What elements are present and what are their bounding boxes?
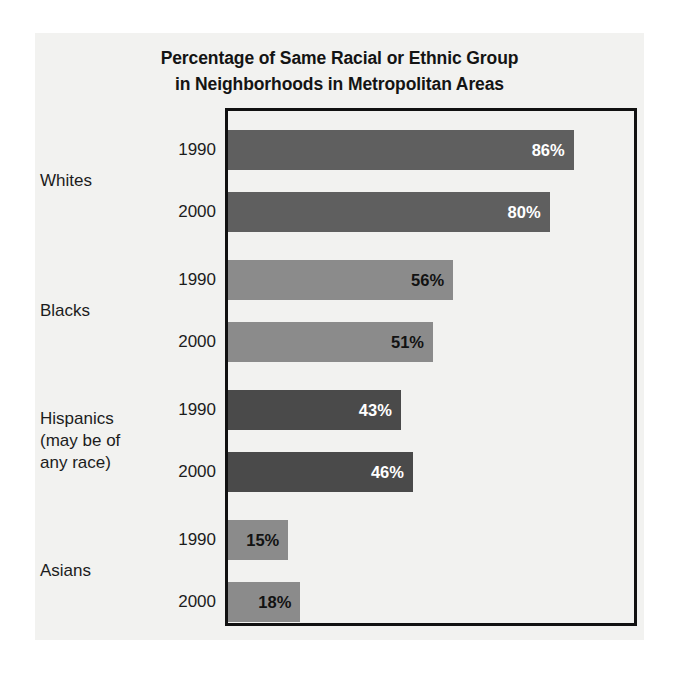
year-label: 1990 [130,130,216,170]
year-label: 2000 [130,322,216,362]
chart-figure: Percentage of Same Racial or Ethnic Grou… [35,33,644,640]
bar-group: Blacks199056%200051% [35,260,644,362]
group-label-line: Whites [40,170,190,192]
bar-value-label: 46% [371,452,404,492]
bar: 80% [228,192,550,232]
bar-row: 199086% [35,130,644,170]
bar-value-label: 56% [411,260,444,300]
bar-value-label: 86% [532,130,565,170]
bar-row: 200080% [35,192,644,232]
bar-row: 200046% [35,452,644,492]
bar: 15% [228,520,288,560]
group-label-line: (may be of [40,430,190,452]
chart-title: Percentage of Same Racial or Ethnic Grou… [35,45,644,97]
group-label: Whites [40,170,190,192]
bar-value-label: 51% [391,322,424,362]
bar-row: 199056% [35,260,644,300]
chart-title-line-2: in Neighborhoods in Metropolitan Areas [35,71,644,97]
bar: 46% [228,452,413,492]
year-label: 2000 [130,452,216,492]
bar-value-label: 18% [258,582,291,622]
bar: 56% [228,260,453,300]
year-label: 1990 [130,260,216,300]
bar-value-label: 43% [359,390,392,430]
bar-row: 200018% [35,582,644,622]
year-label: 1990 [130,390,216,430]
year-label: 2000 [130,192,216,232]
group-label: Blacks [40,300,190,322]
bar-row: 200051% [35,322,644,362]
bar: 43% [228,390,401,430]
bar: 18% [228,582,300,622]
bar-group: Hispanics(may be ofany race)199043%20004… [35,390,644,492]
bar-value-label: 15% [246,520,279,560]
group-label: Asians [40,560,190,582]
bar-row: 199015% [35,520,644,560]
year-label: 1990 [130,520,216,560]
bar-group: Asians199015%200018% [35,520,644,622]
chart-rows: Whites199086%200080%Blacks199056%200051%… [35,108,644,626]
group-label-line: Blacks [40,300,190,322]
bar-value-label: 80% [508,192,541,232]
bar-row: 199043% [35,390,644,430]
chart-title-line-1: Percentage of Same Racial or Ethnic Grou… [35,45,644,71]
year-label: 2000 [130,582,216,622]
bar: 51% [228,322,433,362]
bar: 86% [228,130,574,170]
bar-group: Whites199086%200080% [35,130,644,232]
group-label-line: Asians [40,560,190,582]
